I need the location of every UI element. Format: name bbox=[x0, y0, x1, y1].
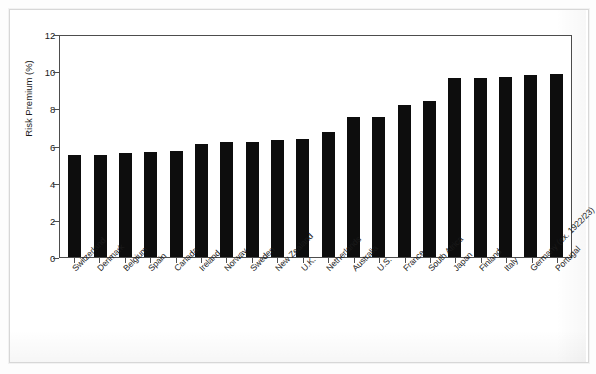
bar[interactable] bbox=[246, 142, 259, 257]
y-axis-tick-mark bbox=[53, 35, 59, 36]
bar[interactable] bbox=[423, 101, 436, 257]
bar[interactable] bbox=[68, 155, 81, 257]
figure-canvas: Risk Premium (%) 024681012SwitzerlandDen… bbox=[0, 0, 596, 374]
y-axis-tick-mark bbox=[53, 109, 59, 110]
bar[interactable] bbox=[524, 75, 537, 257]
bar[interactable] bbox=[474, 78, 487, 257]
bar[interactable] bbox=[322, 132, 335, 257]
bar[interactable] bbox=[398, 105, 411, 257]
bar[interactable] bbox=[170, 151, 183, 257]
y-axis-tick-mark bbox=[53, 147, 59, 148]
bar[interactable] bbox=[499, 77, 512, 257]
bar-series bbox=[60, 36, 571, 257]
bar[interactable] bbox=[220, 142, 233, 257]
bar[interactable] bbox=[372, 117, 385, 257]
bar[interactable] bbox=[119, 153, 132, 257]
bar[interactable] bbox=[448, 78, 461, 257]
bar[interactable] bbox=[144, 152, 157, 257]
y-axis-tick-mark bbox=[53, 258, 59, 259]
y-axis-title: Risk Premium (%) bbox=[23, 44, 34, 154]
bar[interactable] bbox=[271, 140, 284, 257]
y-axis-tick-mark bbox=[53, 72, 59, 73]
bar[interactable] bbox=[550, 74, 563, 257]
y-axis-tick-mark bbox=[53, 184, 59, 185]
plot-area bbox=[59, 35, 572, 258]
bar[interactable] bbox=[195, 144, 208, 257]
y-axis-tick-mark bbox=[53, 221, 59, 222]
